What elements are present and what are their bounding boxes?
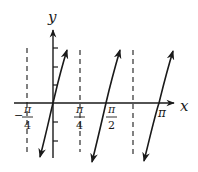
tick-label-neg-pi-over-4: − π 4 (14, 103, 33, 132)
y-axis-label: y (47, 8, 57, 26)
svg-text:π: π (75, 103, 84, 116)
tick-label-pi: π (157, 106, 167, 120)
svg-text:4: 4 (76, 119, 83, 132)
svg-text:2: 2 (108, 119, 115, 132)
svg-text:−: − (14, 109, 23, 122)
svg-text:π: π (23, 103, 32, 116)
asymptotes (27, 48, 133, 154)
svg-text:π: π (107, 103, 116, 116)
svg-text:4: 4 (24, 119, 31, 132)
tangent-branches (40, 50, 173, 162)
tan-2x-graph: y x − π 4 π 4 π 2 π (0, 0, 198, 172)
tick-label-pi-over-2: π 2 (106, 103, 117, 132)
x-axis-label: x (180, 97, 189, 115)
branch-center-pi-over-2 (92, 50, 120, 162)
